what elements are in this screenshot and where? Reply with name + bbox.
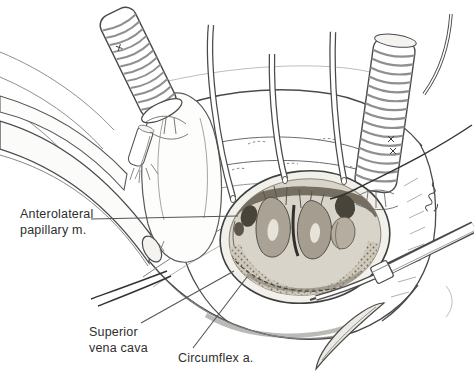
label-anterolateral-papillary-muscle: Anterolateral papillary m.	[20, 206, 93, 238]
surgical-illustration-figure: Anterolateral papillary m. Superior vena…	[0, 0, 474, 387]
leader-circumflex-artery	[193, 277, 247, 348]
venous-cannula-corrugated	[353, 14, 451, 194]
label-circumflex-artery: Circumflex a.	[178, 350, 254, 366]
label-superior-vena-cava: Superior vena cava	[89, 324, 148, 356]
label-svc-line1: Superior	[89, 324, 148, 340]
label-circumflex-line1: Circumflex a.	[178, 350, 254, 366]
label-svc-line2: vena cava	[89, 340, 148, 356]
label-anterolateral-line2: papillary m.	[20, 222, 93, 238]
illustration-canvas	[0, 0, 474, 387]
label-anterolateral-line1: Anterolateral	[20, 206, 93, 222]
